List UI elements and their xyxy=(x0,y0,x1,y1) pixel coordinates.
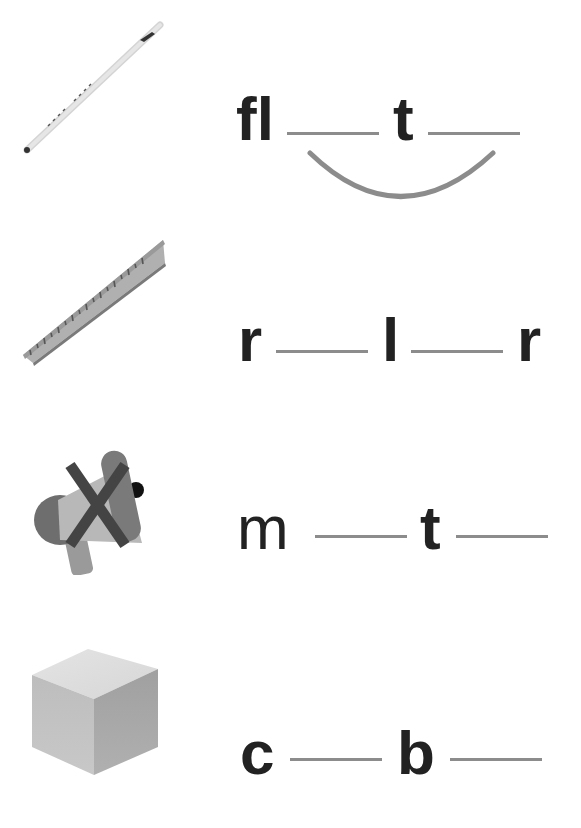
worksheet-row-ruler: r l r xyxy=(0,220,581,400)
worksheet-row-flute: fl t xyxy=(0,0,581,210)
connector-arc xyxy=(300,145,505,205)
blank-line[interactable] xyxy=(276,350,368,353)
letter: b xyxy=(397,722,435,784)
word-puzzle: fl t xyxy=(0,0,581,210)
blank-line[interactable] xyxy=(428,132,520,135)
blank-line[interactable] xyxy=(411,350,503,353)
letter: fl xyxy=(236,88,274,150)
letter: l xyxy=(382,309,399,371)
letter: r xyxy=(517,309,541,371)
letter: m xyxy=(237,497,289,559)
letter: t xyxy=(420,497,441,559)
blank-line[interactable] xyxy=(450,758,542,761)
word-puzzle: r l r xyxy=(0,220,581,400)
blank-line[interactable] xyxy=(315,535,407,538)
worksheet-row-mute: m t xyxy=(0,430,581,600)
word-puzzle: c b xyxy=(0,630,581,828)
worksheet-row-cube: c b xyxy=(0,630,581,828)
blank-line[interactable] xyxy=(456,535,548,538)
letter: c xyxy=(240,722,274,784)
letter: r xyxy=(238,309,262,371)
blank-line[interactable] xyxy=(287,132,379,135)
letter: t xyxy=(393,88,414,150)
word-puzzle: m t xyxy=(0,430,581,600)
blank-line[interactable] xyxy=(290,758,382,761)
